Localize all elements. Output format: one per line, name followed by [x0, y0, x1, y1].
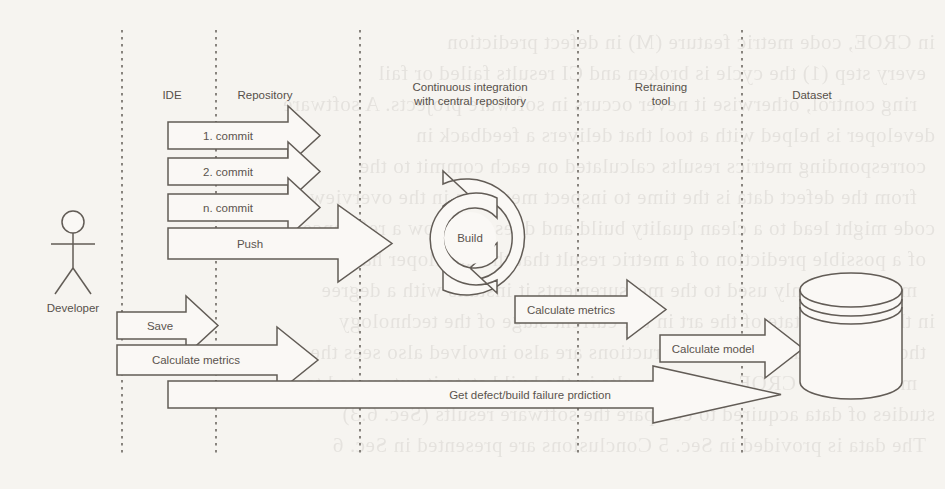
- actor-developer-label: Developer: [47, 302, 100, 314]
- actor-developer: [51, 211, 95, 294]
- header-dataset: Dataset: [792, 89, 832, 101]
- header-retraining-line2: tool: [652, 95, 671, 107]
- build-label: Build: [457, 232, 483, 244]
- actor-leg-left-icon: [55, 268, 73, 294]
- database-top-icon: [800, 273, 902, 307]
- calculate-metrics-right-label: Calculate metrics: [527, 304, 615, 316]
- calculate-metrics-left-label: Calculate metrics: [152, 354, 240, 366]
- header-retraining-line1: Retraining: [635, 81, 687, 93]
- commit-n-label: n. commit: [203, 202, 254, 214]
- diagram-svg: IDE Repository Continuous integration wi…: [0, 0, 945, 489]
- header-ci-line1: Continuous integration: [412, 81, 527, 93]
- header-ci-line2: with central repository: [413, 95, 526, 107]
- save-label: Save: [147, 320, 173, 332]
- commit-2-label: 2. commit: [203, 166, 254, 178]
- header-repository: Repository: [238, 89, 293, 101]
- commit-1-label: 1. commit: [203, 130, 254, 142]
- get-prediction-label: Get defect/build failure prdiction: [449, 389, 611, 401]
- actor-head-icon: [62, 211, 84, 233]
- dataset-database-node: [800, 273, 902, 399]
- header-ide: IDE: [162, 89, 182, 101]
- push-label: Push: [237, 238, 263, 250]
- diagram-canvas: in CROE, code metric feature (M) in defe…: [0, 0, 945, 489]
- actor-leg-right-icon: [73, 268, 91, 294]
- calculate-model-label: Calculate model: [672, 343, 754, 355]
